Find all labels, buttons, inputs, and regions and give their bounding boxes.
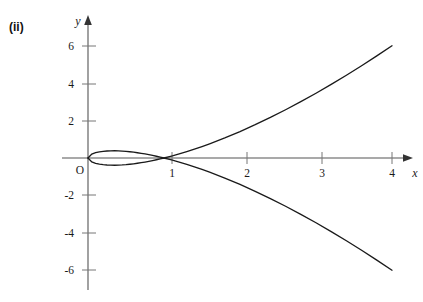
y-tick-label-2: 2 bbox=[68, 115, 74, 127]
x-tick-label-3: 3 bbox=[319, 167, 325, 179]
curve-lower-branch bbox=[88, 158, 392, 270]
x-axis-label: x bbox=[411, 166, 418, 180]
origin-label: O bbox=[76, 164, 84, 176]
y-axis-arrow-icon bbox=[84, 15, 92, 25]
y-tick-label-neg2: -2 bbox=[64, 189, 74, 201]
y-tick-label-4: 4 bbox=[68, 78, 74, 90]
y-tick-label-6: 6 bbox=[68, 40, 74, 52]
x-axis-arrow-icon bbox=[403, 154, 413, 162]
y-axis-label: y bbox=[74, 14, 81, 28]
y-tick-label-neg6: -6 bbox=[64, 264, 74, 276]
y-tick-label-neg4: -4 bbox=[64, 227, 74, 239]
figure-container: (ii) bbox=[0, 0, 423, 302]
coordinate-plot: 1 2 3 4 6 4 2 -2 -4 -6 O y x bbox=[0, 0, 423, 302]
x-tick-label-1: 1 bbox=[169, 167, 175, 179]
x-tick-label-2: 2 bbox=[244, 167, 250, 179]
x-tick-label-4: 4 bbox=[389, 167, 395, 179]
curve-upper-branch bbox=[88, 46, 392, 158]
